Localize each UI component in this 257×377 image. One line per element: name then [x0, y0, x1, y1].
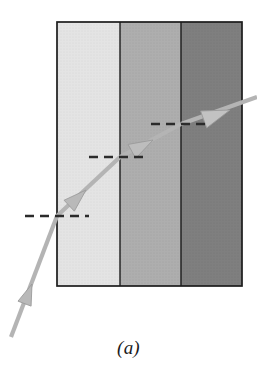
figure-caption: (a) — [0, 337, 257, 359]
figure-container: (a) — [0, 0, 257, 377]
arrowhead-incident-icon — [18, 282, 39, 307]
texture-overlay — [57, 22, 242, 286]
refraction-diagram — [0, 0, 257, 377]
incident-ray — [11, 216, 57, 337]
